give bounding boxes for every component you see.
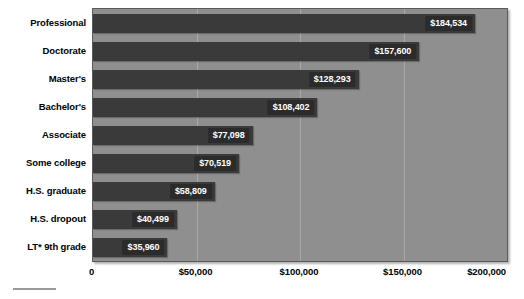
y-axis-category-label: LT* 9th grade [0, 241, 86, 252]
bar-value-label: $77,098 [208, 128, 250, 143]
x-axis-tick-label: $100,000 [280, 266, 319, 277]
bar-row[interactable]: $77,098 [93, 126, 507, 145]
bar-row[interactable]: $157,600 [93, 42, 507, 61]
x-axis-tick-label: $50,000 [179, 266, 213, 277]
x-axis-tick-labels: 0$50,000$100,000$150,000$200,000 [92, 266, 508, 282]
bar-row[interactable]: $184,534 [93, 14, 507, 33]
bars-layer: $184,534$157,600$128,293$108,402$77,098$… [93, 9, 507, 261]
bar-value-label: $40,499 [132, 212, 174, 227]
bar-row[interactable]: $70,519 [93, 154, 507, 173]
y-axis-category-label: Associate [0, 129, 86, 140]
y-axis-category-label: H.S. graduate [0, 185, 86, 196]
bar-row[interactable]: $58,809 [93, 182, 507, 201]
y-axis-category-label: Bachelor's [0, 101, 86, 112]
bar-row[interactable]: $35,960 [93, 238, 507, 257]
y-axis-category-label: Professional [0, 17, 86, 28]
y-axis-category-label: Master's [0, 73, 86, 84]
bar-row[interactable]: $40,499 [93, 210, 507, 229]
y-axis-category-label: Doctorate [0, 45, 86, 56]
bar[interactable] [93, 14, 475, 33]
bar-chart-figure: ProfessionalDoctorateMaster'sBachelor'sA… [0, 0, 524, 299]
x-axis-tick-label: $200,000 [467, 266, 506, 277]
bar-value-label: $128,293 [309, 72, 356, 87]
y-axis-category-label: H.S. dropout [0, 213, 86, 224]
bar-row[interactable]: $128,293 [93, 70, 507, 89]
x-axis-tick-label: 0 [89, 266, 94, 277]
bar-value-label: $35,960 [123, 240, 165, 255]
bar-value-label: $184,534 [425, 16, 472, 31]
gridline [507, 9, 508, 261]
bar-value-label: $108,402 [268, 100, 315, 115]
y-axis-category-labels: ProfessionalDoctorateMaster'sBachelor'sA… [0, 8, 86, 262]
x-axis-tick-label: $150,000 [383, 266, 422, 277]
bar-value-label: $157,600 [369, 44, 416, 59]
bar-value-label: $70,519 [194, 156, 236, 171]
plot-area: $184,534$157,600$128,293$108,402$77,098$… [92, 8, 508, 262]
bar-value-label: $58,809 [170, 184, 212, 199]
footnote-separator-rule [13, 288, 56, 290]
bar-row[interactable]: $108,402 [93, 98, 507, 117]
y-axis-category-label: Some college [0, 157, 86, 168]
